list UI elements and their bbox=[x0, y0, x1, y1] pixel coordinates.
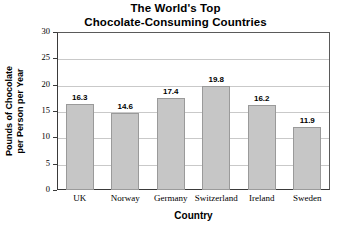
bar-slot: 11.9 bbox=[285, 32, 331, 190]
chart-container: The World's Top Chocolate-Consuming Coun… bbox=[0, 0, 351, 235]
bar-slot: 14.6 bbox=[103, 32, 149, 190]
bar[interactable] bbox=[157, 98, 185, 190]
x-axis-title: Country bbox=[57, 210, 330, 221]
bar[interactable] bbox=[66, 104, 94, 190]
bar-series: 16.314.617.419.816.211.9 bbox=[57, 32, 330, 190]
y-axis-tick-label: 30 bbox=[10, 27, 50, 36]
y-axis-tick-label: 10 bbox=[10, 132, 50, 141]
bar[interactable] bbox=[293, 127, 321, 190]
bar-value-label: 11.9 bbox=[275, 116, 341, 125]
y-axis-tick-label: 0 bbox=[10, 185, 50, 194]
chart-title: The World's Top Chocolate-Consuming Coun… bbox=[0, 1, 351, 29]
bar[interactable] bbox=[248, 105, 276, 190]
y-axis-tick-label: 20 bbox=[10, 80, 50, 89]
bar[interactable] bbox=[111, 113, 139, 190]
bar-slot: 17.4 bbox=[148, 32, 194, 190]
y-axis-tick bbox=[53, 190, 57, 191]
y-axis-tick-label: 25 bbox=[10, 53, 50, 62]
y-axis-tick-label: 5 bbox=[10, 159, 50, 168]
y-axis-tick-label: 15 bbox=[10, 106, 50, 115]
chart-title-line-2: Chocolate-Consuming Countries bbox=[0, 15, 351, 29]
x-axis-tick-label: Sweden bbox=[277, 193, 339, 204]
chart-title-line-1: The World's Top bbox=[130, 2, 220, 14]
bar-slot: 16.2 bbox=[239, 32, 285, 190]
bar-slot: 19.8 bbox=[194, 32, 240, 190]
bar[interactable] bbox=[202, 86, 230, 190]
